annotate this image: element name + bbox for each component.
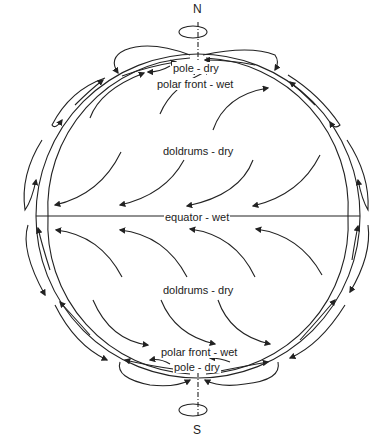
doldrums-bottom-label: doldrums - dry: [162, 284, 234, 296]
north-rotation-icon: [179, 26, 207, 38]
pole-top-label: pole - dry: [172, 62, 220, 74]
doldrums-top-label: doldrums - dry: [162, 145, 234, 157]
pole-bottom-label: pole - dry: [173, 361, 221, 373]
polar-front-top-label: polar front - wet: [156, 78, 234, 90]
polar-front-bottom-label: polar front - wet: [160, 346, 238, 358]
equator-label: equator - wet: [164, 211, 230, 223]
north-label: N: [193, 2, 202, 16]
south-label: S: [193, 423, 201, 437]
south-rotation-icon: [179, 404, 207, 416]
